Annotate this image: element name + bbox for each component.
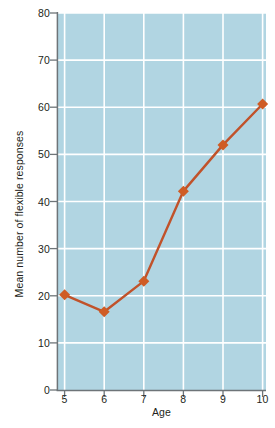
- x-tick-label: 5: [50, 393, 80, 405]
- y-tick-label: 70: [24, 54, 50, 66]
- y-tick-label: 20: [24, 290, 50, 302]
- x-tick-label: 9: [208, 393, 238, 405]
- x-tick-label: 7: [129, 393, 159, 405]
- x-tick-label: 6: [89, 393, 119, 405]
- y-tick-label: 30: [24, 243, 50, 255]
- y-tick-label: 10: [24, 337, 50, 349]
- y-tick-label: 80: [24, 7, 50, 19]
- y-axis-tick-labels: 80 70 60 50 40 30 20 10 0: [22, 0, 50, 428]
- chart-figure: 80 70 60 50 40 30 20 10 0 5 6 7 8 9 10 M…: [0, 0, 275, 428]
- y-tick-label: 40: [24, 196, 50, 208]
- x-axis-title: Age: [57, 406, 266, 418]
- x-tick-label: 10: [248, 393, 275, 405]
- y-tick-label: 60: [24, 101, 50, 113]
- y-tick-label: 50: [24, 148, 50, 160]
- x-tick-label: 8: [168, 393, 198, 405]
- y-axis-tick-marks: [50, 13, 57, 390]
